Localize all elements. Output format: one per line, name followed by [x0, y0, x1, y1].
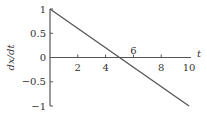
x-tick-label: 4 [102, 62, 108, 73]
x-tick-label: 6 [130, 45, 136, 56]
y-tick-label: −0.5 [22, 76, 46, 87]
chart: 10.50−0.5−1246810tdx/dt [0, 0, 207, 115]
y-tick-label: 1 [40, 4, 46, 15]
y-tick-label: 0 [40, 52, 46, 63]
x-tick-label: 10 [183, 62, 196, 73]
x-tick-label: 2 [75, 62, 81, 73]
y-axis-label: dx/dt [5, 44, 16, 71]
x-axis-label: t [197, 48, 202, 59]
y-tick-label: 0.5 [30, 28, 46, 39]
y-tick-label: −1 [31, 101, 46, 112]
x-tick-label: 8 [158, 62, 164, 73]
